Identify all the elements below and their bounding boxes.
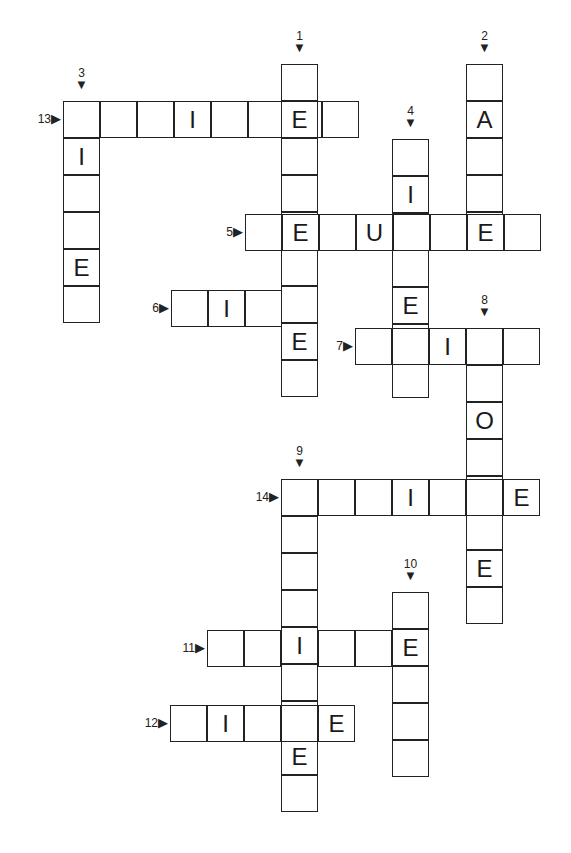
clue-number-8-down: 8▼ bbox=[470, 294, 500, 318]
crossword-cell[interactable] bbox=[244, 705, 281, 742]
crossword-cell[interactable] bbox=[429, 479, 466, 516]
crossword-cell[interactable] bbox=[322, 101, 359, 138]
across-arrow-icon: ▶ bbox=[269, 491, 279, 503]
clue-number-4-down: 4▼ bbox=[396, 105, 426, 129]
clue-number-6-across: 6▶ bbox=[152, 302, 169, 314]
crossword-cell[interactable] bbox=[392, 328, 429, 365]
crossword-cell[interactable]: E bbox=[281, 101, 318, 138]
crossword-cell[interactable] bbox=[281, 64, 318, 101]
crossword-cell[interactable] bbox=[466, 513, 503, 550]
crossword-cell[interactable] bbox=[281, 705, 318, 742]
crossword-cell[interactable]: E bbox=[318, 705, 355, 742]
clue-number-2-down: 2▼ bbox=[470, 30, 500, 54]
crossword-cell[interactable]: E bbox=[392, 629, 429, 666]
down-arrow-icon: ▼ bbox=[396, 117, 426, 129]
crossword-cell[interactable] bbox=[466, 587, 503, 624]
crossword-cell[interactable] bbox=[63, 101, 100, 138]
crossword-cell[interactable]: I bbox=[392, 479, 429, 516]
crossword-cell[interactable] bbox=[355, 630, 392, 667]
crossword-cell[interactable] bbox=[63, 175, 100, 212]
crossword-cell[interactable] bbox=[281, 249, 318, 286]
crossword-cell[interactable] bbox=[466, 138, 503, 175]
across-arrow-icon: ▶ bbox=[51, 113, 61, 125]
crossword-cell[interactable]: I bbox=[208, 290, 245, 327]
crossword-cell[interactable] bbox=[355, 479, 392, 516]
crossword-cell[interactable]: U bbox=[356, 214, 393, 251]
crossword-cell[interactable] bbox=[281, 664, 318, 701]
across-arrow-icon: ▶ bbox=[343, 340, 353, 352]
crossword-cell[interactable]: E bbox=[281, 738, 318, 775]
across-arrow-icon: ▶ bbox=[159, 302, 169, 314]
crossword-cell[interactable] bbox=[318, 630, 355, 667]
crossword-cell[interactable] bbox=[245, 290, 282, 327]
crossword-cell[interactable] bbox=[281, 590, 318, 627]
crossword-cell[interactable] bbox=[504, 214, 541, 251]
crossword-cell[interactable] bbox=[319, 214, 356, 251]
crossword-cell[interactable] bbox=[245, 214, 282, 251]
crossword-cell[interactable] bbox=[355, 328, 392, 365]
clue-number-3-down: 3▼ bbox=[67, 67, 97, 91]
crossword-cell[interactable]: E bbox=[282, 214, 319, 251]
down-arrow-icon: ▼ bbox=[67, 79, 97, 91]
crossword-cell[interactable]: E bbox=[392, 287, 429, 324]
crossword-cell[interactable]: I bbox=[63, 138, 100, 175]
crossword-cell[interactable] bbox=[466, 439, 503, 476]
clue-number-text: 12 bbox=[145, 717, 158, 729]
crossword-cell[interactable]: E bbox=[467, 214, 504, 251]
down-arrow-icon: ▼ bbox=[285, 42, 315, 54]
crossword-cell[interactable] bbox=[100, 101, 137, 138]
clue-number-text: 7 bbox=[336, 340, 343, 352]
crossword-cell[interactable] bbox=[211, 101, 248, 138]
clue-number-text: 13 bbox=[38, 113, 51, 125]
crossword-cell[interactable] bbox=[281, 286, 318, 323]
across-arrow-icon: ▶ bbox=[158, 717, 168, 729]
across-arrow-icon: ▶ bbox=[233, 226, 243, 238]
crossword-cell[interactable] bbox=[318, 479, 355, 516]
crossword-cell[interactable] bbox=[281, 775, 318, 812]
crossword-cell[interactable]: I bbox=[174, 101, 211, 138]
crossword-cell[interactable]: I bbox=[281, 627, 318, 664]
clue-number-text: 11 bbox=[183, 642, 195, 654]
clue-number-10-down: 10▼ bbox=[396, 558, 426, 582]
crossword-cell[interactable]: E bbox=[466, 550, 503, 587]
crossword-cell[interactable]: O bbox=[466, 402, 503, 439]
crossword-cell[interactable] bbox=[281, 138, 318, 175]
crossword-cell[interactable] bbox=[281, 553, 318, 590]
crossword-cell[interactable]: E bbox=[503, 479, 540, 516]
crossword-cell[interactable]: I bbox=[429, 328, 466, 365]
crossword-cell[interactable] bbox=[392, 666, 429, 703]
crossword-cell[interactable]: A bbox=[466, 101, 503, 138]
crossword-cell[interactable] bbox=[392, 592, 429, 629]
crossword-cell[interactable] bbox=[503, 328, 540, 365]
crossword-cell[interactable] bbox=[137, 101, 174, 138]
crossword-cell[interactable] bbox=[171, 290, 208, 327]
crossword-cell[interactable] bbox=[63, 212, 100, 249]
crossword-cell[interactable] bbox=[393, 214, 430, 251]
crossword-cell[interactable] bbox=[281, 479, 318, 516]
crossword-cell[interactable] bbox=[466, 479, 503, 516]
crossword-cell[interactable] bbox=[248, 101, 285, 138]
crossword-cell[interactable] bbox=[466, 328, 503, 365]
crossword-cell[interactable]: I bbox=[207, 705, 244, 742]
crossword-cell[interactable] bbox=[281, 360, 318, 397]
crossword-cell[interactable] bbox=[63, 286, 100, 323]
crossword-cell[interactable] bbox=[281, 516, 318, 553]
crossword-cell[interactable] bbox=[466, 175, 503, 212]
crossword-cell[interactable] bbox=[207, 630, 244, 667]
crossword-cell[interactable] bbox=[170, 705, 207, 742]
crossword-cell[interactable] bbox=[430, 214, 467, 251]
crossword-cell[interactable] bbox=[392, 361, 429, 398]
crossword-cell[interactable] bbox=[466, 365, 503, 402]
crossword-cell[interactable] bbox=[392, 139, 429, 176]
crossword-cell[interactable]: E bbox=[281, 323, 318, 360]
crossword-cell[interactable] bbox=[281, 175, 318, 212]
crossword-cell[interactable] bbox=[392, 250, 429, 287]
crossword-cell[interactable] bbox=[392, 703, 429, 740]
crossword-cell[interactable] bbox=[244, 630, 281, 667]
crossword-cell[interactable] bbox=[392, 740, 429, 777]
down-arrow-icon: ▼ bbox=[396, 570, 426, 582]
clue-number-text: 6 bbox=[152, 302, 159, 314]
crossword-cell[interactable]: E bbox=[63, 249, 100, 286]
crossword-cell[interactable] bbox=[466, 64, 503, 101]
crossword-cell[interactable]: I bbox=[392, 176, 429, 213]
